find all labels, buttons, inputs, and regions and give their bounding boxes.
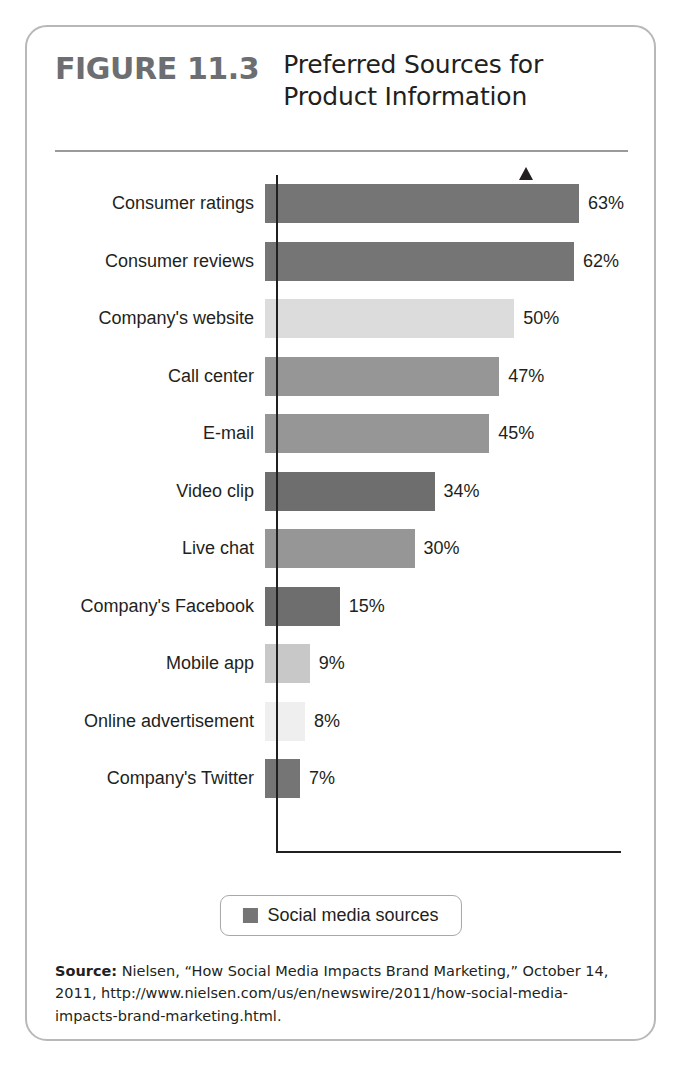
bar-category-label: Company's website xyxy=(27,308,265,329)
bar-track: 15% xyxy=(265,578,658,636)
bar-rows: Consumer ratings63%Consumer reviews62%Co… xyxy=(27,175,658,808)
bar-category-label: Consumer reviews xyxy=(27,251,265,272)
bar-category-label: Consumer ratings xyxy=(27,193,265,214)
bar-value-label: 30% xyxy=(424,538,460,559)
y-axis xyxy=(276,175,278,853)
bar-value-label: 63% xyxy=(588,193,624,214)
bar xyxy=(265,357,499,396)
bar-track: 63% xyxy=(265,175,658,233)
bar-category-label: Company's Facebook xyxy=(27,596,265,617)
bar-value-label: 50% xyxy=(523,308,559,329)
bar-row: Online advertisement8% xyxy=(27,693,658,751)
bar-track: 30% xyxy=(265,520,658,578)
bar-category-label: Live chat xyxy=(27,538,265,559)
bar-track: 34% xyxy=(265,463,658,521)
bar-row: Mobile app9% xyxy=(27,635,658,693)
title-divider xyxy=(55,150,628,152)
legend-swatch-icon xyxy=(242,908,257,923)
figure-title: Preferred Sources for Product Informatio… xyxy=(283,49,543,113)
bar-value-label: 62% xyxy=(583,251,619,272)
figure-title-line1: Preferred Sources for xyxy=(283,49,543,81)
bar-row: Consumer reviews62% xyxy=(27,233,658,291)
bar-value-label: 45% xyxy=(498,423,534,444)
bar-value-label: 9% xyxy=(319,653,345,674)
source-note: Source: Nielsen, “How Social Media Impac… xyxy=(55,960,630,1027)
bar-category-label: Online advertisement xyxy=(27,711,265,732)
bar-row: Live chat30% xyxy=(27,520,658,578)
figure-card: FIGURE 11.3 Preferred Sources for Produc… xyxy=(25,25,656,1041)
bar-track: 45% xyxy=(265,405,658,463)
bar-value-label: 8% xyxy=(314,711,340,732)
bar-value-label: 15% xyxy=(349,596,385,617)
bar-track: 8% xyxy=(265,693,658,751)
bar xyxy=(265,472,435,511)
bar xyxy=(265,759,300,798)
bar-category-label: Video clip xyxy=(27,481,265,502)
bar-row: Company's website50% xyxy=(27,290,658,348)
bar-category-label: Mobile app xyxy=(27,653,265,674)
bar-row: E-mail45% xyxy=(27,405,658,463)
bar-row: Consumer ratings63% xyxy=(27,175,658,233)
bar xyxy=(265,702,305,741)
bar-value-label: 47% xyxy=(508,366,544,387)
source-text: Nielsen, “How Social Media Impacts Brand… xyxy=(55,963,608,1024)
bar-row: Company's Twitter7% xyxy=(27,750,658,808)
bar-row: Video clip34% xyxy=(27,463,658,521)
bar-track: 50% xyxy=(265,290,658,348)
bar-category-label: E-mail xyxy=(27,423,265,444)
bar-track: 9% xyxy=(265,635,658,693)
bar-value-label: 34% xyxy=(444,481,480,502)
bar-track: 62% xyxy=(265,233,658,291)
bar xyxy=(265,242,574,281)
bar-row: Company's Facebook15% xyxy=(27,578,658,636)
bar-chart: Consumer ratings63%Consumer reviews62%Co… xyxy=(27,167,658,867)
bar-category-label: Company's Twitter xyxy=(27,768,265,789)
source-label: Source: xyxy=(55,963,117,979)
bar xyxy=(265,299,514,338)
bar-track: 47% xyxy=(265,348,658,406)
figure-number: FIGURE 11.3 xyxy=(55,49,259,86)
bar-category-label: Call center xyxy=(27,366,265,387)
legend-label: Social media sources xyxy=(267,905,438,926)
bar xyxy=(265,414,489,453)
figure-title-line2: Product Information xyxy=(283,81,543,113)
chart-legend: Social media sources xyxy=(219,895,461,936)
bar-row: Call center47% xyxy=(27,348,658,406)
bar xyxy=(265,184,579,223)
figure-header: FIGURE 11.3 Preferred Sources for Produc… xyxy=(55,49,628,113)
x-axis xyxy=(276,851,621,853)
y-axis-arrow-icon xyxy=(519,167,533,180)
bar xyxy=(265,529,415,568)
bar xyxy=(265,644,310,683)
bar-track: 7% xyxy=(265,750,658,808)
bar-value-label: 7% xyxy=(309,768,335,789)
